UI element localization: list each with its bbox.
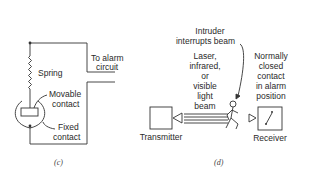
fixed-contact-dot (29, 125, 32, 128)
normally-closed-label-2: closed (245, 61, 297, 71)
normally-closed-label-4: in alarm (245, 81, 297, 91)
fixed-contact-label-1: Fixed (58, 122, 79, 132)
to-alarm-label-2: circuit (96, 62, 118, 72)
top-junction-dot (29, 42, 32, 45)
movable-contact-label-2: contact (52, 99, 79, 109)
normally-closed-label-1: Normally (245, 51, 297, 61)
beam-label-1: Laser, (180, 51, 230, 61)
intruder-arrow (238, 44, 244, 96)
normally-closed-label-3: contact (245, 71, 297, 81)
transmitter-label: Transmitter (136, 132, 186, 142)
receiver-box (258, 107, 282, 130)
fixed-contact-label-2: contact (53, 132, 80, 142)
fixed-leader (43, 122, 55, 129)
spring-icon (29, 43, 32, 108)
caption-d: (d) (214, 158, 223, 167)
receiver-lens-icon (249, 114, 256, 122)
beam-label-3: or (180, 71, 230, 81)
normally-closed-label-5: position (245, 91, 297, 101)
movable-contact-label-1: Movable (49, 89, 81, 99)
receiver-label: Receiver (245, 133, 295, 143)
movable-contact-icon (21, 108, 38, 116)
receiver-contact-switch (266, 113, 272, 124)
caption-c: (c) (54, 158, 63, 167)
beam-label-2: infrared, (180, 61, 230, 71)
transmitter-box (150, 107, 172, 129)
intruder-label-1: Intruder (185, 26, 235, 36)
transmitter-lens-icon (173, 113, 182, 123)
beam-label-6: beam (180, 101, 230, 111)
beam-label-5: light (180, 91, 230, 101)
beam-label-4: visible (180, 81, 230, 91)
intruder-label-2: interrupts beam (168, 36, 243, 46)
movable-leader (34, 95, 47, 108)
spring-label: Spring (38, 68, 63, 78)
